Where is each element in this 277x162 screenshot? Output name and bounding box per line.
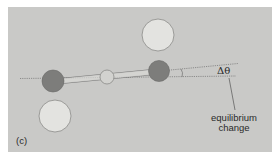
fiber-attachment [100,70,114,84]
large-sphere-bottom-left [39,100,71,132]
torsion-balance-diagram: Δθ equilibrium change (c) [0,0,277,162]
panel-label: (c) [16,135,27,146]
small-sphere-right [149,61,170,82]
large-sphere-top-right [142,19,174,51]
small-sphere-left [42,70,64,92]
angle-label: Δθ [217,65,230,76]
annotation-change: change [218,122,249,133]
